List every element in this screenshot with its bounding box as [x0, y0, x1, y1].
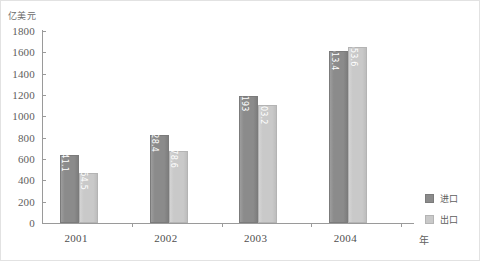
bar-exports-2001[interactable]: 464.5 [79, 173, 98, 223]
bar-value-label: 1653.6 [349, 37, 358, 66]
bar-value-label: 678.6 [169, 144, 178, 168]
y-tick-label: 1600 [0, 46, 35, 58]
y-tick-label: 1800 [0, 25, 35, 37]
legend-item-imports[interactable]: 进口 [425, 193, 459, 204]
x-tick-label: 2002 [140, 232, 192, 244]
y-tick-label: 800 [0, 132, 35, 144]
x-tick-mark [401, 223, 402, 227]
y-tick-label: 1400 [0, 68, 35, 80]
bar-value-label: 641.1 [60, 148, 69, 172]
bar-imports-2002[interactable]: 828.4 [150, 135, 169, 223]
y-tick-mark [42, 223, 46, 224]
x-tick-label: 2001 [50, 232, 102, 244]
bar-exports-2002[interactable]: 678.6 [169, 151, 188, 223]
bar-value-label: 1103.2 [259, 96, 268, 125]
chart-legend: 进口出口 [425, 193, 459, 235]
bar-value-label: 828.4 [150, 128, 159, 152]
bar-imports-2001[interactable]: 641.1 [60, 155, 79, 223]
x-axis-line [42, 223, 414, 224]
bar-imports-2003[interactable]: 1193 [239, 96, 258, 223]
y-axis-unit-label: 亿美元 [8, 9, 36, 22]
bar-group-2002: 828.4678.6 [150, 31, 188, 223]
x-tick-label: 2003 [230, 232, 282, 244]
legend-swatch-icon [425, 215, 434, 224]
bar-value-label: 1613.4 [330, 41, 339, 70]
legend-swatch-icon [425, 194, 434, 203]
y-tick-label: 400 [0, 174, 35, 186]
y-tick-label: 200 [0, 196, 35, 208]
legend-label: 出口 [440, 213, 459, 226]
bar-value-label: 464.5 [79, 167, 88, 191]
y-tick-label: 1000 [0, 110, 35, 122]
bar-value-label: 1193 [240, 90, 249, 111]
bar-exports-2004[interactable]: 1653.6 [348, 47, 367, 223]
x-tick-label: 2004 [319, 232, 371, 244]
bar-group-2004: 1613.41653.6 [329, 31, 367, 223]
bar-imports-2004[interactable]: 1613.4 [329, 51, 348, 223]
x-tick-mark [311, 223, 312, 227]
x-tick-mark [132, 223, 133, 227]
legend-item-exports[interactable]: 出口 [425, 214, 459, 225]
legend-label: 进口 [440, 192, 459, 205]
y-tick-label: 600 [0, 153, 35, 165]
y-tick-label: 1200 [0, 89, 35, 101]
bar-group-2001: 641.1464.5 [60, 31, 98, 223]
bar-group-2003: 11931103.2 [239, 31, 277, 223]
plot-area: 641.1464.5828.4678.611931103.21613.41653… [42, 31, 401, 223]
y-tick-label: 0 [0, 217, 35, 229]
bar-exports-2003[interactable]: 1103.2 [258, 105, 277, 223]
x-tick-mark [222, 223, 223, 227]
chart-screenshot: 亿美元 020040060080010001200140016001800 20… [0, 0, 480, 261]
